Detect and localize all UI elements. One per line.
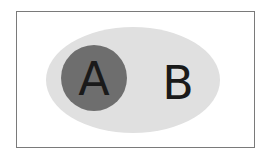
venn-diagram: A B (0, 0, 273, 162)
set-b-label: B (162, 56, 194, 110)
set-a-label: A (78, 52, 110, 106)
